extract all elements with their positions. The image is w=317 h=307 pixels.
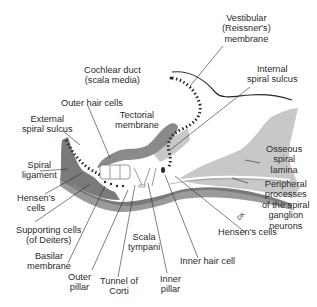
label-external-spiral-sulcus: External spiral sulcus bbox=[22, 114, 73, 135]
label-inner-hair-cell: Inner hair cell bbox=[180, 256, 235, 266]
label-hensens-cells-right: Hensen's cells bbox=[218, 227, 277, 237]
label-internal-spiral-sulcus: Internal spiral sulcus bbox=[247, 64, 298, 85]
label-outer-pillar: Outer pillar bbox=[68, 272, 91, 293]
label-tectorial-membrane: Tectorial membrane bbox=[115, 110, 159, 131]
label-osseous-spiral-lamina: Osseous spiral lamina bbox=[266, 144, 302, 175]
label-outer-hair-cells: Outer hair cells bbox=[61, 98, 123, 108]
pillars bbox=[134, 168, 156, 186]
tunnel-of-corti bbox=[139, 185, 145, 187]
outer-hair-cells bbox=[100, 165, 130, 179]
label-spiral-ligament: Spiral ligament bbox=[22, 160, 57, 181]
label-tunnel-of-corti: Tunnel of Corti bbox=[100, 276, 138, 297]
label-peripheral-processes: Peripheral processes of the spiral gangl… bbox=[262, 179, 310, 231]
label-inner-pillar: Inner pillar bbox=[160, 274, 181, 295]
label-hensens-cells-left: Hensen's cells bbox=[17, 193, 55, 214]
label-cochlear-duct: Cochlear duct (scala media) bbox=[84, 65, 141, 86]
label-scala-tympani: Scala tympani bbox=[128, 232, 160, 253]
reissner-endpoint bbox=[170, 77, 173, 80]
label-basilar-membrane: Basilar membrane bbox=[27, 251, 71, 272]
inner-hair-cell bbox=[161, 167, 165, 173]
label-supporting-cells: Supporting cells (of Deiters) bbox=[16, 225, 81, 246]
label-vestibular-membrane: Vestibular (Reissner's) membrane bbox=[222, 13, 271, 44]
